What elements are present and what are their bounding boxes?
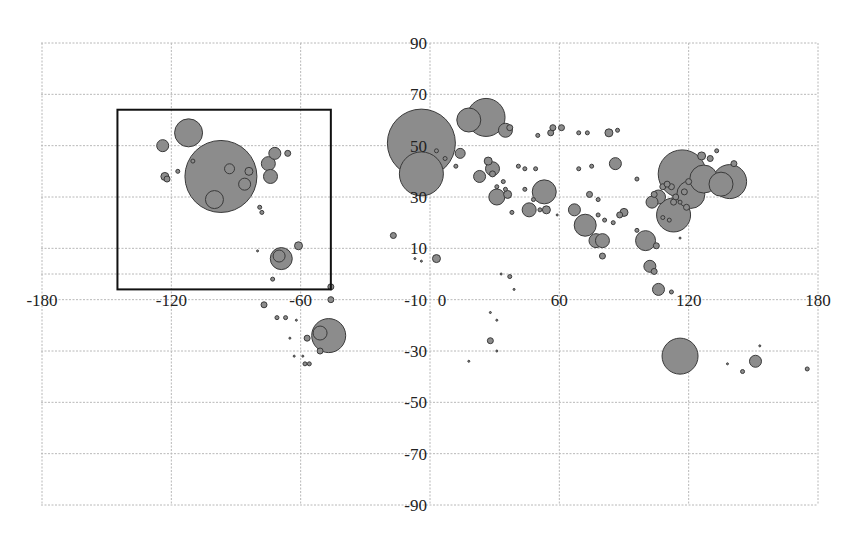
bubble-point bbox=[558, 125, 564, 131]
bubble-point bbox=[295, 242, 303, 250]
bubble-point bbox=[596, 213, 600, 217]
bubble-point bbox=[457, 108, 481, 132]
bubble-point bbox=[261, 302, 267, 308]
y-tick-label: 50 bbox=[410, 137, 427, 156]
bubble-point bbox=[432, 255, 440, 263]
bubble-point bbox=[523, 167, 527, 171]
bubble-point bbox=[636, 231, 656, 251]
bubble-point bbox=[531, 198, 535, 202]
bubble-point bbox=[681, 189, 687, 195]
bubble-point bbox=[577, 131, 581, 135]
bubble-point bbox=[293, 355, 295, 357]
bubble-point bbox=[516, 164, 520, 168]
bubble-point bbox=[651, 268, 657, 274]
bubble-point bbox=[484, 157, 492, 165]
bubble-point bbox=[496, 319, 498, 321]
bubble-point bbox=[284, 316, 288, 320]
bubble-point bbox=[225, 164, 235, 174]
bubble-point bbox=[500, 273, 502, 275]
bubble-point bbox=[616, 128, 620, 132]
y-tick-label: 10 bbox=[410, 239, 427, 258]
bubble-point bbox=[487, 338, 493, 344]
bubble-point bbox=[651, 191, 657, 197]
bubble-point bbox=[805, 367, 809, 371]
bubble-point bbox=[474, 170, 486, 182]
bubble-point bbox=[273, 250, 285, 262]
bubble-point bbox=[434, 149, 438, 153]
bubble-point bbox=[239, 178, 251, 190]
bubble-point bbox=[715, 149, 719, 153]
y-tick-label: -50 bbox=[404, 393, 427, 412]
bubble-point bbox=[295, 319, 297, 321]
bubble-point bbox=[304, 335, 310, 341]
bubble-point bbox=[596, 198, 600, 202]
bubble-point bbox=[534, 167, 538, 171]
bubble-point bbox=[595, 234, 609, 248]
bubble-point bbox=[749, 355, 761, 367]
bubble-point bbox=[271, 277, 275, 281]
bubble-point bbox=[501, 180, 505, 184]
x-tick-label: 120 bbox=[676, 291, 702, 310]
bubble-point bbox=[741, 370, 745, 374]
bubble-point bbox=[661, 216, 665, 220]
bubble-point bbox=[443, 157, 447, 161]
bubble-point bbox=[652, 283, 664, 295]
x-tick-label: 60 bbox=[551, 291, 568, 310]
bubble-point bbox=[577, 167, 581, 171]
bubble-point bbox=[731, 161, 737, 167]
bubble-point bbox=[635, 177, 639, 181]
bubble-point bbox=[585, 131, 589, 135]
bubble-point bbox=[495, 185, 499, 189]
bubble-point bbox=[508, 275, 512, 279]
bubble-series bbox=[157, 98, 810, 374]
bubble-point bbox=[667, 218, 671, 222]
bubble-point bbox=[175, 119, 203, 147]
bubble-point bbox=[510, 210, 514, 214]
bubble-point bbox=[664, 181, 670, 187]
bubble-point bbox=[669, 290, 673, 294]
bubble-point bbox=[617, 212, 623, 218]
bubble-point bbox=[523, 187, 527, 191]
bubble-point bbox=[205, 191, 223, 209]
bubble-point bbox=[513, 288, 515, 290]
bubble-point bbox=[709, 172, 733, 196]
bubble-point bbox=[759, 345, 761, 347]
bubble-point bbox=[662, 338, 698, 374]
bubble-point bbox=[646, 196, 658, 208]
bubble-point bbox=[489, 189, 505, 205]
x-tick-label: -120 bbox=[156, 291, 187, 310]
bubble-point bbox=[454, 164, 458, 168]
bubble-point bbox=[164, 176, 170, 182]
bubble-point bbox=[257, 250, 259, 252]
y-tick-label: 70 bbox=[410, 85, 427, 104]
x-tick-label: -180 bbox=[26, 291, 57, 310]
y-tick-label: -90 bbox=[404, 496, 427, 515]
bubble-point bbox=[507, 125, 513, 131]
bubble-point bbox=[522, 203, 536, 217]
bubble-point bbox=[420, 260, 422, 262]
bubble-point bbox=[605, 129, 613, 137]
bubble-point bbox=[599, 253, 605, 259]
bubble-point bbox=[707, 156, 713, 162]
bubble-point bbox=[313, 326, 327, 340]
bubble-point bbox=[556, 214, 558, 216]
bubble-point bbox=[635, 228, 639, 232]
bubble-point bbox=[303, 362, 307, 366]
bubble-point bbox=[260, 210, 264, 214]
x-tick-label: 0 bbox=[438, 291, 447, 310]
bubble-point bbox=[317, 348, 323, 354]
bubble-point bbox=[191, 159, 195, 163]
bubble-point bbox=[302, 355, 304, 357]
bubble-point bbox=[496, 350, 498, 352]
bubble-point bbox=[390, 233, 396, 239]
bubble-point bbox=[603, 218, 607, 222]
bubble-point bbox=[611, 221, 615, 225]
bubble-point bbox=[726, 363, 728, 365]
bubble-point bbox=[289, 337, 291, 339]
bubble-point bbox=[686, 179, 692, 185]
bubble-point bbox=[550, 125, 556, 131]
x-tick-label: 180 bbox=[805, 291, 831, 310]
bubble-point bbox=[653, 243, 659, 249]
bubble-point bbox=[489, 312, 491, 314]
bubble-point bbox=[671, 199, 677, 205]
